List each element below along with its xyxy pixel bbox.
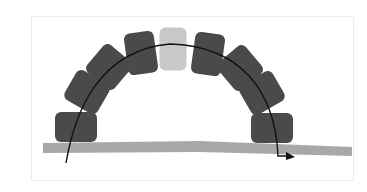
keystone-block bbox=[160, 28, 187, 71]
arch-diagram bbox=[0, 0, 367, 192]
ground-beam bbox=[43, 141, 352, 156]
arch-block bbox=[123, 30, 159, 76]
arch-block bbox=[55, 112, 97, 142]
